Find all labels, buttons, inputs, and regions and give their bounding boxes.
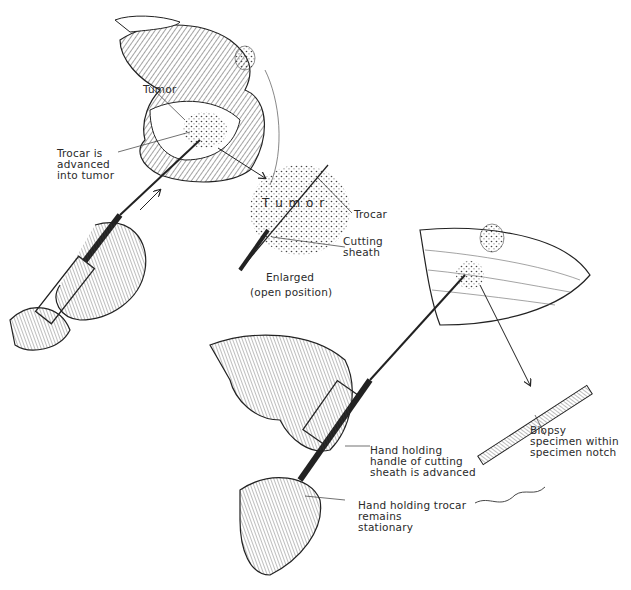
label-tumor-enlarged: T u m o r xyxy=(262,198,325,209)
label-trocar-advanced: Trocar is advanced into tumor xyxy=(57,148,114,181)
label-cutting-sheath: Cutting sheath xyxy=(343,236,383,258)
label-tumor: Tumor xyxy=(143,84,176,95)
label-hand-sheath: Hand holding handle of cutting sheath is… xyxy=(370,445,476,478)
lower-tissue xyxy=(420,224,590,385)
artist-signature xyxy=(475,487,545,503)
upper-hand-tissue xyxy=(115,16,279,185)
label-biopsy-specimen: Biopsy specimen within specimen notch xyxy=(530,425,619,458)
label-open-position: (open position) xyxy=(250,287,332,298)
enlarged-view xyxy=(240,165,352,270)
biopsy-illustration: Tumor Trocar is advanced into tumor T u … xyxy=(0,0,631,590)
label-trocar: Trocar xyxy=(354,209,387,220)
label-enlarged: Enlarged xyxy=(266,272,314,283)
label-hand-trocar: Hand holding trocar remains stationary xyxy=(358,500,466,533)
